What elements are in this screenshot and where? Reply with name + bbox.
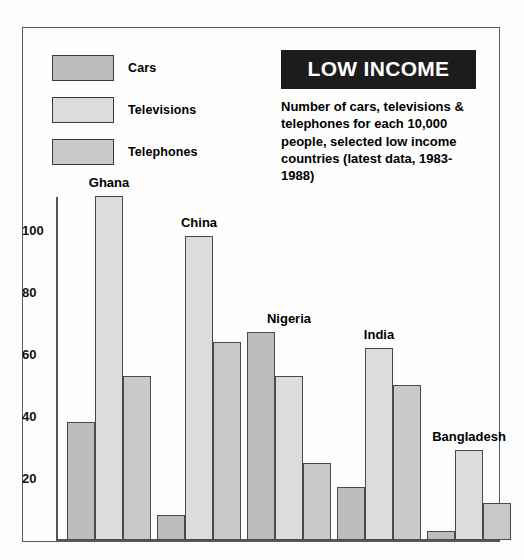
group-label-china: China (132, 215, 266, 230)
group-label-ghana: Ghana (42, 175, 176, 190)
bar-telephones-india (393, 385, 421, 540)
group-label-nigeria: Nigeria (222, 311, 356, 326)
bar-telephones-nigeria (303, 463, 331, 541)
bar-televisions-india (365, 348, 393, 540)
group-label-bangladesh: Bangladesh (402, 429, 524, 444)
chart-figure: Cars Televisions Telephones LOW INCOME N… (0, 0, 524, 560)
bar-cars-nigeria (247, 332, 275, 540)
bar-telephones-bangladesh (483, 503, 511, 540)
bar-televisions-bangladesh (455, 450, 483, 540)
bar-cars-india (337, 487, 365, 540)
bar-televisions-nigeria (275, 376, 303, 540)
bar-cars-ghana (67, 422, 95, 540)
bar-telephones-china (213, 342, 241, 540)
group-label-india: India (312, 327, 446, 342)
bar-televisions-china (185, 236, 213, 540)
bar-televisions-ghana (95, 196, 123, 540)
bars-layer: GhanaChinaNigeriaIndiaBangladesh (22, 27, 500, 540)
plot-area: 100 80 60 40 20 GhanaChinaNigeriaIndiaBa… (22, 27, 500, 542)
bar-cars-china (157, 515, 185, 540)
bar-cars-bangladesh (427, 531, 455, 540)
bar-telephones-ghana (123, 376, 151, 540)
